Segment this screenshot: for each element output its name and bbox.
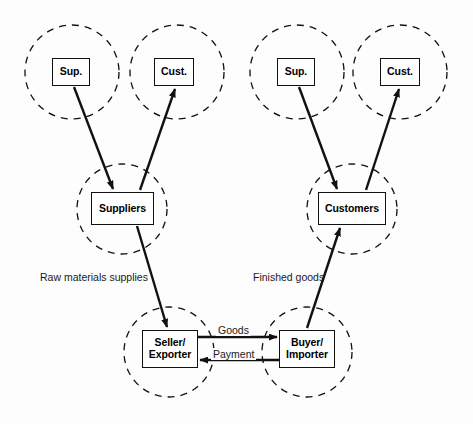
edge-label-goods: Goods bbox=[216, 324, 251, 336]
node-seller-exporter-label-line2: Exporter bbox=[149, 349, 191, 361]
node-sup-right-label: Sup. bbox=[285, 66, 307, 78]
edge-label-payment: Payment bbox=[211, 348, 256, 360]
node-suppliers-label: Suppliers bbox=[99, 203, 146, 215]
node-customers-label: Customers bbox=[325, 203, 379, 215]
node-sup-right[interactable]: Sup. bbox=[277, 58, 315, 86]
node-cust-left[interactable]: Cust. bbox=[154, 58, 194, 86]
node-sup-left-label: Sup. bbox=[60, 66, 82, 78]
arrow-suppliers-to-cust-left bbox=[140, 89, 175, 190]
node-buyer-importer[interactable]: Buyer/ Importer bbox=[279, 330, 335, 368]
node-buyer-importer-label-line2: Importer bbox=[286, 349, 328, 361]
node-seller-exporter[interactable]: Seller/ Exporter bbox=[142, 330, 198, 368]
arrow-customers-to-cust-right bbox=[366, 89, 399, 190]
node-suppliers[interactable]: Suppliers bbox=[91, 192, 154, 225]
arrow-sup-left-to-suppliers bbox=[74, 87, 113, 189]
arrow-sup-right-to-customers bbox=[299, 87, 337, 189]
node-customers[interactable]: Customers bbox=[318, 192, 386, 225]
edge-label-finished-goods: Finished goods bbox=[253, 271, 324, 283]
edge-label-raw-materials-supplies: Raw materials supplies bbox=[40, 271, 148, 283]
node-cust-right-label: Cust. bbox=[387, 66, 413, 78]
node-cust-right[interactable]: Cust. bbox=[380, 58, 420, 86]
node-cust-left-label: Cust. bbox=[161, 66, 187, 78]
node-sup-left[interactable]: Sup. bbox=[52, 58, 90, 86]
supply-chain-diagram: Sup. Cust. Suppliers Seller/ Exporter Bu… bbox=[0, 0, 473, 424]
